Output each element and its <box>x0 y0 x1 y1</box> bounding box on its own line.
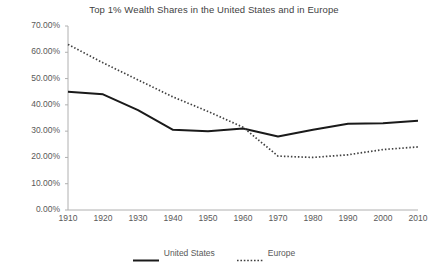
y-axis-tick-label: 50.00% <box>14 73 60 83</box>
x-axis-tick-label: 1960 <box>226 213 260 223</box>
x-axis-tick-label: 1920 <box>86 213 120 223</box>
x-axis-tick-label: 1970 <box>261 213 295 223</box>
series-line-united-states <box>68 92 418 137</box>
x-axis-tick-label: 2000 <box>366 213 400 223</box>
legend-item-united-states: United States <box>133 248 215 258</box>
legend-swatch-dotted-icon <box>237 250 263 257</box>
y-axis-tick-label: 10.00% <box>14 178 60 188</box>
y-axis-tick-label: 30.00% <box>14 125 60 135</box>
x-axis-tick-label: 1950 <box>191 213 225 223</box>
chart-legend: United States Europe <box>0 248 428 258</box>
legend-item-europe: Europe <box>237 248 295 258</box>
legend-label-europe: Europe <box>268 248 295 258</box>
x-axis-tick-label: 2010 <box>401 213 428 223</box>
wealth-shares-chart: Top 1% Wealth Shares in the United State… <box>0 0 428 271</box>
x-axis-tick-label: 1930 <box>121 213 155 223</box>
legend-swatch-solid-icon <box>133 250 159 257</box>
y-axis-tick-label: 40.00% <box>14 99 60 109</box>
chart-axes <box>65 26 418 210</box>
y-axis-tick-label: 70.00% <box>14 20 60 30</box>
x-axis-tick-label: 1910 <box>51 213 85 223</box>
x-axis-tick-label: 1980 <box>296 213 330 223</box>
legend-label-united-states: United States <box>164 248 215 258</box>
y-axis-tick-label: 20.00% <box>14 151 60 161</box>
plot-area <box>0 0 428 271</box>
y-axis-tick-label: 60.00% <box>14 46 60 56</box>
series-line-europe <box>68 44 418 157</box>
x-axis-tick-label: 1990 <box>331 213 365 223</box>
x-axis-tick-label: 1940 <box>156 213 190 223</box>
